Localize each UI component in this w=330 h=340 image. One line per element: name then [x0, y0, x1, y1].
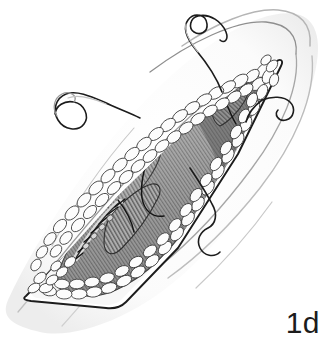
surgical-illustration-figure: 1d	[0, 0, 330, 340]
figure-caption-label: 1d	[286, 308, 320, 338]
upper-left-free-suture-secondary	[54, 93, 75, 116]
illustration-canvas	[0, 0, 330, 340]
